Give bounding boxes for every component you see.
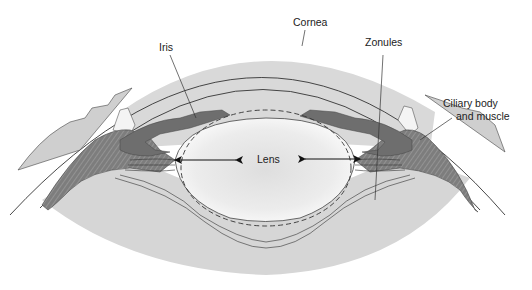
leader-cornea [302, 30, 305, 46]
label-iris: Iris [159, 41, 173, 53]
label-ciliary-line1: Ciliary body [443, 97, 498, 109]
label-ciliary-line2: and muscle [456, 110, 510, 122]
label-cornea: Cornea [293, 16, 327, 28]
eye-cross-section-svg [0, 0, 532, 290]
label-lens: Lens [257, 153, 280, 165]
eye-diagram: Cornea Iris Zonules Ciliary body and mus… [0, 0, 532, 290]
label-zonules: Zonules [365, 36, 402, 48]
